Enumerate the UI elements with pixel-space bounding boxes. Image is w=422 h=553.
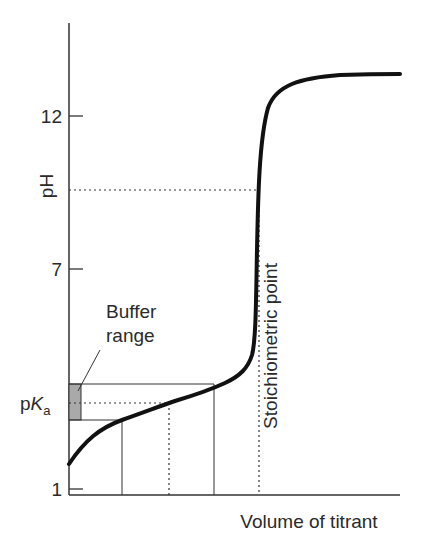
- buffer-range-label-line1: Buffer: [106, 301, 157, 322]
- titration-chart: 12 7 1 pH pKa Buffer range Stoichiometri…: [0, 0, 422, 553]
- pka-label: pKa: [20, 393, 51, 418]
- buffer-range-label-line2: range: [106, 325, 155, 346]
- x-axis-label: Volume of titrant: [240, 511, 378, 532]
- titration-curve: [69, 74, 400, 464]
- y-tick-label-7: 7: [51, 259, 62, 280]
- stoichiometric-point-label: Stoichiometric point: [260, 262, 281, 429]
- buffer-range-leader-line: [78, 350, 100, 391]
- y-tick-label-1: 1: [51, 479, 62, 500]
- y-tick-label-12: 12: [41, 106, 62, 127]
- y-axis-label: pH: [36, 174, 57, 198]
